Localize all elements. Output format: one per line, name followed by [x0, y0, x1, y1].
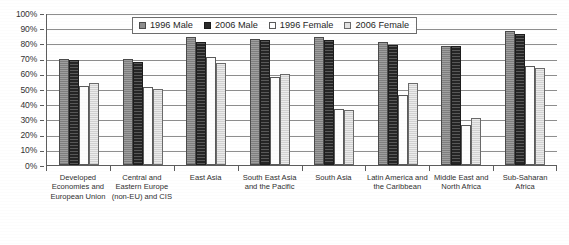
x-axis-category: South Asia — [302, 166, 366, 242]
x-axis-category-label: South Asia — [302, 173, 366, 182]
bar — [334, 109, 344, 165]
x-axis-category-label: Sub-Saharan Africa — [493, 173, 557, 192]
bar — [59, 59, 69, 165]
y-axis-tick-label: 50% — [21, 86, 37, 95]
bar-group — [175, 14, 239, 165]
legend-swatch-icon — [344, 22, 351, 29]
x-axis-tick-mark — [429, 166, 430, 171]
bar — [324, 40, 334, 165]
x-axis-category-label: East Asia — [174, 173, 238, 182]
x-axis-category: Latin America and the Caribbean — [365, 166, 429, 242]
x-axis-category-label: Developed Economies and European Union — [46, 173, 110, 201]
bar — [471, 118, 481, 165]
y-axis-tick-mark — [40, 60, 44, 61]
x-axis: Developed Economies and European UnionCe… — [46, 166, 557, 242]
x-axis-category-label: Latin America and the Caribbean — [365, 173, 429, 192]
y-axis-tick-label: 40% — [21, 101, 37, 110]
y-axis-tick-mark — [40, 90, 44, 91]
bar-chart: 100%90%80%70%60%50%40%30%20%10%0% Develo… — [0, 0, 569, 245]
y-axis-tick-mark — [40, 120, 44, 121]
legend-label: 2006 Female — [355, 21, 409, 30]
x-axis-tick-mark — [110, 166, 111, 171]
x-axis-category-label: Central and Eastern Europe (non-EU) and … — [110, 173, 174, 201]
x-axis-tick-mark — [365, 166, 366, 171]
legend-item: 2006 Male — [204, 21, 258, 30]
bar — [505, 31, 515, 165]
y-axis-tick-mark — [40, 75, 44, 76]
bar — [398, 95, 408, 165]
x-axis-category: East Asia — [174, 166, 238, 242]
plot-area — [46, 14, 557, 166]
bar — [525, 66, 535, 165]
bar — [153, 89, 163, 165]
x-axis-category: Sub-Saharan Africa — [493, 166, 557, 242]
legend-swatch-icon — [204, 22, 211, 29]
bar-group — [430, 14, 494, 165]
y-axis-tick-mark — [40, 166, 44, 167]
bar — [344, 110, 354, 165]
y-axis-tick-mark — [40, 105, 44, 106]
bar — [451, 46, 461, 165]
bar — [79, 86, 89, 165]
bar — [535, 68, 545, 165]
legend-item: 2006 Female — [344, 21, 409, 30]
bar — [143, 87, 153, 165]
bar — [250, 39, 260, 165]
x-axis-category: Central and Eastern Europe (non-EU) and … — [110, 166, 174, 242]
bar — [216, 63, 226, 165]
y-axis-tick-label: 70% — [21, 55, 37, 64]
legend-label: 1996 Male — [150, 21, 193, 30]
legend-swatch-icon — [139, 22, 146, 29]
x-axis-category: South East Asia and the Pacific — [238, 166, 302, 242]
y-axis-tick-mark — [40, 136, 44, 137]
bar — [441, 46, 451, 165]
y-axis-tick-mark — [40, 14, 44, 15]
y-axis-tick-label: 20% — [21, 131, 37, 140]
y-axis-tick-label: 60% — [21, 70, 37, 79]
bar-group — [366, 14, 430, 165]
x-axis-tick-mark — [493, 166, 494, 171]
bar — [270, 77, 280, 165]
bar — [280, 74, 290, 165]
bar — [69, 60, 79, 165]
chart-legend: 1996 Male2006 Male1996 Female2006 Female — [132, 17, 417, 34]
bar — [206, 57, 216, 165]
bar — [461, 125, 471, 165]
y-axis-tick-label: 80% — [21, 40, 37, 49]
bar-groups — [47, 14, 557, 165]
x-axis-category: Middle East and North Africa — [429, 166, 493, 242]
y-axis-tick-mark — [40, 29, 44, 30]
y-axis-tick-mark — [40, 151, 44, 152]
bar — [196, 42, 206, 165]
bar — [314, 37, 324, 165]
legend-label: 2006 Male — [215, 21, 258, 30]
legend-item: 1996 Female — [269, 21, 334, 30]
bar-group — [238, 14, 302, 165]
y-axis-tick-label: 30% — [21, 116, 37, 125]
bar — [133, 62, 143, 165]
y-axis-tick-label: 0% — [25, 162, 37, 171]
bar — [388, 45, 398, 165]
x-axis-tick-mark — [556, 166, 557, 171]
x-axis-tick-mark — [174, 166, 175, 171]
bar-group — [493, 14, 557, 165]
y-axis-tick-label: 10% — [21, 146, 37, 155]
bar — [378, 42, 388, 165]
bar — [186, 37, 196, 165]
legend-swatch-icon — [269, 22, 276, 29]
bar — [123, 59, 133, 165]
x-axis-tick-mark — [302, 166, 303, 171]
x-axis-category: Developed Economies and European Union — [46, 166, 110, 242]
bar-group — [47, 14, 111, 165]
bar — [515, 34, 525, 165]
bar — [89, 83, 99, 165]
x-axis-category-label: South East Asia and the Pacific — [238, 173, 302, 192]
x-axis-tick-mark — [46, 166, 47, 171]
y-axis-tick-label: 100% — [16, 10, 37, 19]
legend-label: 1996 Female — [280, 21, 334, 30]
y-axis-tick-mark — [40, 44, 44, 45]
x-axis-category-label: Middle East and North Africa — [429, 173, 493, 192]
bar — [260, 40, 270, 165]
bar-group — [302, 14, 366, 165]
bar-group — [111, 14, 175, 165]
